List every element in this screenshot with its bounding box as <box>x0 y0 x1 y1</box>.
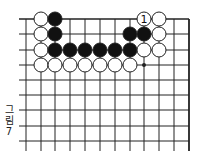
white-stone <box>93 58 107 72</box>
white-stone <box>108 58 122 72</box>
black-stone <box>63 43 77 57</box>
black-stone <box>123 27 137 41</box>
black-stone <box>48 43 62 57</box>
white-stone <box>152 27 166 41</box>
black-stone <box>48 12 62 26</box>
point-marker-dot <box>142 63 146 67</box>
caption-char: 림 <box>2 115 16 126</box>
black-stone <box>137 27 151 41</box>
figure-caption: 그 림 7 <box>2 104 16 137</box>
black-stone <box>48 27 62 41</box>
white-stone <box>34 58 48 72</box>
white-stone <box>152 43 166 57</box>
move-number-label: 1 <box>141 13 148 26</box>
caption-char: 7 <box>2 126 16 137</box>
black-stone <box>123 43 137 57</box>
white-stone <box>34 27 48 41</box>
white-stone <box>152 12 166 26</box>
white-stone <box>63 58 77 72</box>
white-stone <box>137 43 151 57</box>
black-stone <box>78 43 92 57</box>
white-stone <box>34 43 48 57</box>
go-board-diagram: 1 <box>0 0 199 162</box>
white-stone <box>123 58 137 72</box>
white-stone <box>34 12 48 26</box>
white-stone <box>78 58 92 72</box>
markers-layer <box>142 63 146 67</box>
caption-char: 그 <box>2 104 16 115</box>
white-stone <box>48 58 62 72</box>
black-stone <box>93 43 107 57</box>
black-stone <box>108 43 122 57</box>
